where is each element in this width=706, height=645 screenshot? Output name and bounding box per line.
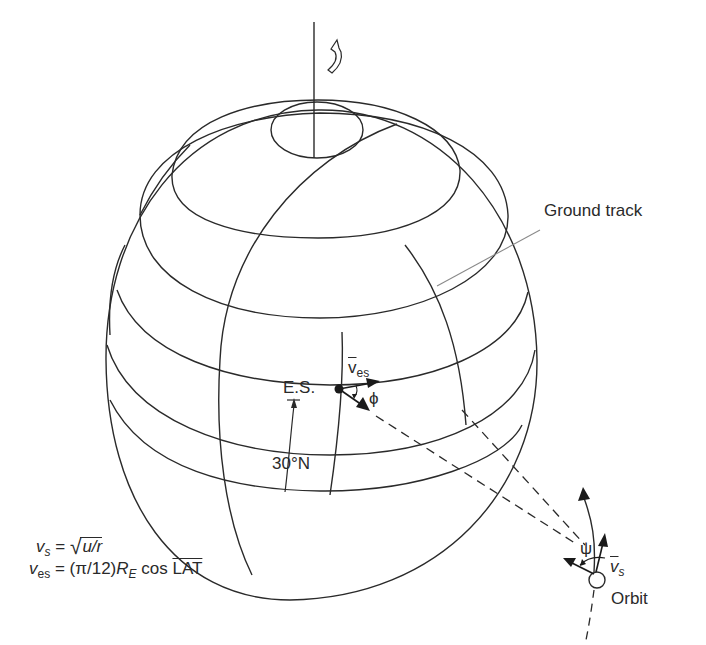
- psi-label: ψ: [580, 540, 592, 557]
- eq1-lhs: v: [36, 537, 45, 556]
- vs-label: vs: [610, 558, 625, 578]
- vs-arrowhead: [598, 533, 608, 547]
- ves-sub: es: [357, 366, 370, 380]
- psi-arc-arrowhead: [580, 559, 586, 566]
- earth-station-meridian: [330, 332, 342, 495]
- latitude-circle-15: [107, 345, 535, 455]
- eq2-func: cos: [137, 559, 173, 578]
- meridian-line: [219, 124, 397, 575]
- ground-track-label: Ground track: [544, 202, 642, 219]
- orbit-path-dashed: [586, 590, 594, 640]
- satellite-direction-vector: [339, 389, 362, 405]
- vs-sub: s: [619, 565, 625, 579]
- eq2-radius: R: [116, 559, 128, 578]
- earth-sphere-outline: [106, 110, 537, 600]
- eq2-equals: =: [50, 559, 69, 578]
- satellite-direction-arrowhead: [356, 397, 370, 411]
- sqrt-icon: √: [70, 536, 82, 558]
- phi-label: ϕ: [369, 390, 379, 407]
- earth-diagram: [0, 0, 706, 645]
- latitude-label: 30°N: [272, 455, 310, 472]
- eq2-lhs: v: [29, 559, 38, 578]
- eq2-lhs-sub: es: [38, 567, 51, 581]
- latitude-circle-30a: [117, 290, 528, 385]
- ground-track-curve: [405, 245, 466, 425]
- ground-track-to-satellite-dashed: [462, 410, 585, 545]
- orbit-label: Orbit: [611, 590, 648, 607]
- eq2-factor: (π/12): [70, 559, 117, 578]
- satellite-to-earth-arrowhead: [563, 558, 576, 567]
- earth-station-label: E.S.: [283, 379, 315, 396]
- ves-label: ves: [348, 359, 369, 379]
- eq2-radius-sub: E: [129, 567, 137, 581]
- vs-var: v: [610, 557, 619, 576]
- eq1-radicand: u/r: [80, 537, 102, 555]
- latitude-circle-45: [140, 113, 508, 318]
- latitude-circle-60: [172, 100, 460, 238]
- ves-var: v: [348, 358, 357, 377]
- orbit-direction-arrowhead: [578, 487, 590, 501]
- equation-ves: ves = (π/12)RE cos LAT: [29, 558, 202, 585]
- latitude-circle-equator: [110, 400, 522, 491]
- rotation-arrow-icon: [328, 40, 342, 73]
- latitude-pointer: [285, 405, 294, 492]
- line-of-sight-dashed: [376, 416, 578, 545]
- eq1-equals: =: [51, 537, 70, 556]
- satellite-icon: [589, 572, 605, 588]
- eq2-arg: LAT: [172, 559, 202, 578]
